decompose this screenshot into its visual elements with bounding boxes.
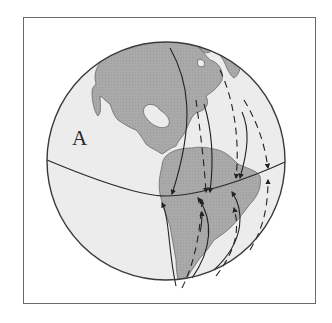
hudson-bay [197,59,204,66]
globe-diagram [0,0,332,323]
figure-label: A [72,128,87,149]
